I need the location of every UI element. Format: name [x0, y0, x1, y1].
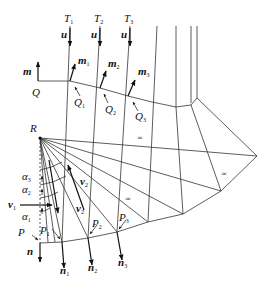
label-alpha3: α3 — [22, 170, 31, 183]
label-m2: m2 — [108, 57, 120, 70]
label-p: P — [17, 226, 25, 238]
label-v2-upper: v2 — [80, 175, 88, 188]
label-t3: T3 — [124, 12, 133, 25]
lower-funnel-lines — [176, 98, 257, 214]
upper-boundary — [38, 81, 197, 107]
label-p2: P2 — [91, 217, 102, 230]
label-q2: Q2 — [105, 103, 116, 116]
label-alpha2: α2 — [22, 183, 31, 196]
equal-mark-1: ≈ — [137, 134, 143, 142]
label-q1: Q1 — [74, 96, 85, 109]
label-p1: P1 — [39, 224, 50, 237]
equal-mark-3: ≈ — [125, 195, 131, 203]
label-r: R — [29, 122, 37, 134]
label-n1: n1 — [60, 264, 69, 277]
label-u2: u — [91, 28, 97, 40]
diagram-canvas: R Q P T1 T2 T3 u u u m m1 m2 m3 Q1 Q2 Q3… — [0, 0, 269, 287]
label-u1: u — [61, 28, 67, 40]
label-n3: n3 — [118, 256, 127, 269]
label-v1: v1 — [8, 198, 16, 211]
label-q: Q — [32, 86, 40, 98]
label-alpha1: α1 — [22, 210, 31, 223]
point-r — [38, 136, 41, 139]
label-m1: m1 — [78, 54, 90, 67]
label-q3: Q3 — [135, 110, 146, 123]
label-p3: P3 — [118, 211, 129, 224]
label-m: m — [23, 65, 32, 77]
equal-mark-2: ≈ — [221, 170, 227, 178]
label-u3: u — [121, 28, 127, 40]
label-t2: T2 — [94, 12, 103, 25]
label-n2: n2 — [88, 261, 97, 274]
label-m3: m3 — [138, 65, 150, 78]
label-v2-lower: v2 — [76, 202, 84, 215]
label-t1: T1 — [64, 12, 73, 25]
label-n: n — [27, 245, 33, 257]
fan-rays — [40, 138, 257, 242]
